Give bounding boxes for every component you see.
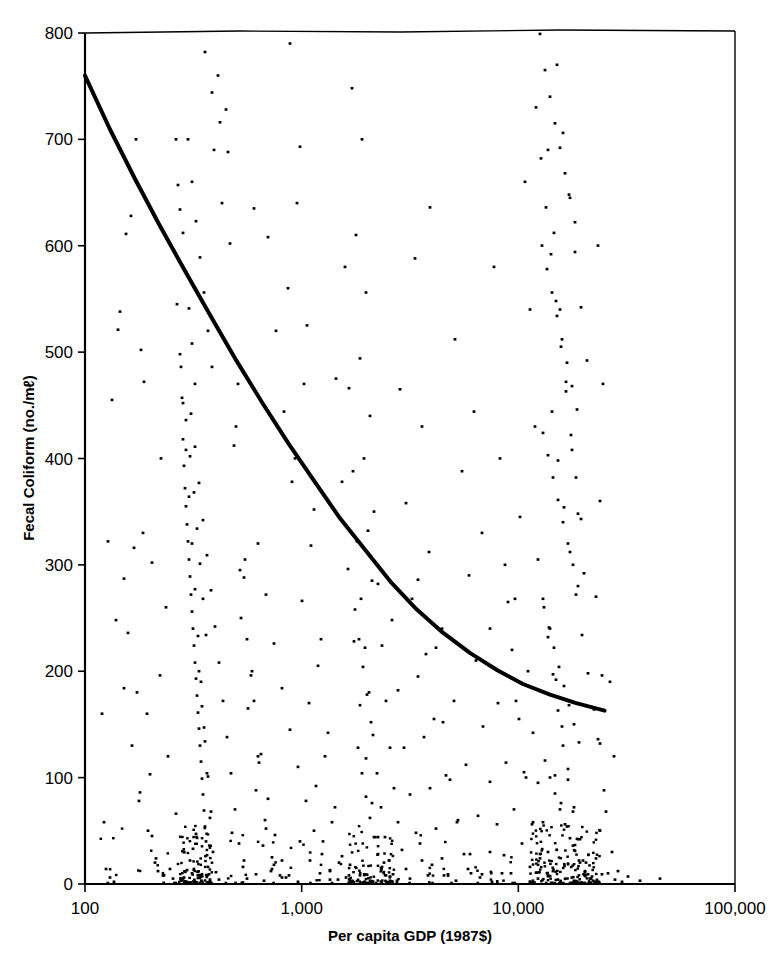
scatter-point [201,873,204,875]
scatter-point [551,410,554,413]
scatter-point [539,33,542,36]
scatter-point [374,836,377,838]
scatter-point [531,859,534,861]
scatter-point [140,349,143,352]
scatter-point [365,757,368,760]
scatter-point [212,851,215,854]
scatter-point [194,383,197,386]
scatter-point [163,874,166,877]
scatter-point [180,862,183,864]
scatter-point [203,291,206,294]
scatter-point [185,449,188,452]
scatter-point [214,625,217,628]
scatter-point [243,859,246,862]
scatter-point [393,787,396,790]
scatter-point [546,268,549,271]
scatter-point [359,357,362,360]
scatter-point [113,881,116,884]
scatter-point [465,764,468,767]
scatter-point [288,874,291,877]
scatter-point [239,569,242,572]
scatter-point [267,798,270,801]
scatter-point [369,415,372,418]
scatter-point [499,457,502,460]
scatter-point [559,147,562,150]
x-axis-title: Per capita GDP (1987$) [328,927,492,944]
scatter-point [543,606,546,609]
scatter-point [455,879,458,882]
scatter-point [348,874,351,877]
scatter-point [175,882,178,884]
scatter-point [194,825,197,827]
scatter-point [201,845,204,847]
scatter-point [198,670,201,673]
scatter-point [308,702,311,705]
scatter-point [481,532,484,535]
y-tick-label: 0 [64,875,73,894]
scatter-point [369,817,372,820]
scatter-point [175,138,178,141]
scatter-point [194,661,197,664]
scatter-point [469,853,472,856]
scatter-point [135,138,138,141]
scatter-point [570,876,573,878]
scatter-point [334,806,337,809]
scatter-point [100,838,103,840]
scatter-point [561,725,564,728]
scatter-point [290,867,293,869]
scatter-point [503,854,506,857]
scatter-point [539,857,542,860]
scatter-point [617,870,620,873]
scatter-point [549,95,552,98]
y-tick-label: 300 [45,556,73,575]
scatter-point [380,869,383,871]
scatter-point [204,740,207,743]
scatter-point [547,879,550,881]
scatter-point [537,782,540,785]
scatter-point [151,561,154,564]
scatter-point [285,876,288,879]
scatter-point [397,878,400,880]
scatter-point [258,761,261,764]
scatter-point [111,399,114,402]
scatter-point [250,674,253,677]
scatter-point [569,551,572,554]
scatter-point [201,777,204,780]
scatter-point [541,848,544,850]
scatter-point [403,746,406,749]
scatter-point [587,873,590,876]
scatter-point [601,873,604,876]
scatter-point [218,878,221,881]
scatter-point [175,812,178,815]
scatter-point [309,882,312,884]
scatter-point [593,881,596,883]
scatter-point [408,882,411,884]
scatter-point [609,681,612,684]
scatter-point [197,711,200,714]
scatter-point [535,872,538,874]
scatter-point [197,863,200,865]
scatter-point [560,824,563,826]
scatter-point [195,220,198,223]
scatter-point [567,825,570,827]
scatter-point [535,829,538,831]
scatter-point [322,840,325,843]
scatter-point [539,853,542,855]
scatter-point [361,772,364,775]
scatter-point [557,499,560,502]
scatter-point [204,855,207,857]
scatter-point [474,866,477,868]
scatter-point [192,627,195,630]
scatter-point [566,856,569,858]
scatter-point [192,848,195,851]
scatter-point [597,881,600,883]
scatter-point [184,871,187,873]
scatter-point [183,851,186,853]
scatter-point [331,882,334,884]
scatter-point [477,882,480,884]
scatter-point [567,768,570,771]
scatter-point [558,882,561,884]
scatter-point [183,848,186,850]
chart-figure: 1001,00010,000100,000 010020030040050060… [0,0,778,959]
scatter-point [562,744,565,747]
